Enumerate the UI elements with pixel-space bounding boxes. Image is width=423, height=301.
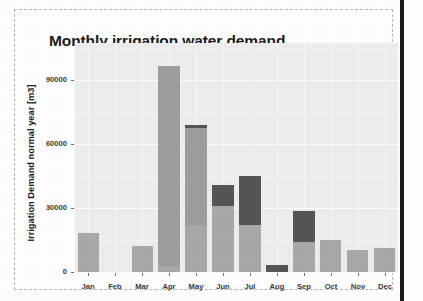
x-tick-label-oct: Oct <box>317 282 345 291</box>
gridline-y-30000 <box>75 208 398 209</box>
bar-segment <box>185 128 207 226</box>
bar-jun[interactable] <box>212 185 234 272</box>
gridline-x-nov <box>358 43 359 273</box>
bar-segment <box>293 211 315 243</box>
bar-segment <box>293 242 315 272</box>
bar-segment <box>239 225 261 272</box>
x-tick-mark-sep <box>304 273 305 276</box>
bar-dec[interactable] <box>374 248 396 272</box>
bar-apr[interactable] <box>158 66 180 272</box>
x-tick-mark-aug <box>277 273 278 276</box>
bar-segment <box>374 248 396 272</box>
x-tick-mark-oct <box>331 273 332 276</box>
gridline-y-0 <box>75 272 398 273</box>
x-tick-label-feb: Feb <box>101 282 129 291</box>
bar-sep[interactable] <box>293 211 315 272</box>
x-tick-label-jul: Jul <box>236 282 264 291</box>
bar-segment <box>212 185 234 206</box>
y-tick-mark-60000 <box>71 144 74 145</box>
y-tick-mark-0 <box>71 272 74 273</box>
bar-segment <box>132 246 154 273</box>
x-tick-mark-dec <box>385 273 386 276</box>
bar-jan[interactable] <box>78 233 100 272</box>
x-tick-mark-apr <box>169 273 170 276</box>
x-tick-label-jan: Jan <box>74 282 102 291</box>
gridline-y-90000 <box>75 80 398 81</box>
plot-area <box>75 43 398 273</box>
x-tick-label-jun: Jun <box>209 282 237 291</box>
bar-oct[interactable] <box>320 240 342 272</box>
x-tick-label-dec: Dec <box>371 282 399 291</box>
bar-segment <box>347 250 369 272</box>
gridline-y-minor-1 <box>75 48 398 49</box>
x-tick-mark-may <box>196 273 197 276</box>
y-tick-label-90000: 90000 <box>23 76 67 84</box>
x-tick-label-nov: Nov <box>344 282 372 291</box>
bar-may[interactable] <box>185 125 207 272</box>
y-tick-label-0: 0 <box>23 268 67 276</box>
gridline-y-60000 <box>75 144 398 145</box>
gridline-y-minor-3 <box>75 176 398 177</box>
gridline-x-oct <box>331 43 332 273</box>
x-tick-mark-jun <box>223 273 224 276</box>
bar-jul[interactable] <box>239 176 261 272</box>
x-tick-mark-feb <box>115 273 116 276</box>
page-margin-blank <box>404 0 423 301</box>
gridline-x-dec <box>385 43 386 273</box>
bar-aug[interactable] <box>266 265 288 272</box>
x-tick-mark-mar <box>142 273 143 276</box>
gridline-y-minor-4 <box>75 240 398 241</box>
gridline-x-aug <box>277 43 278 273</box>
x-tick-mark-jan <box>88 273 89 276</box>
bar-mar[interactable] <box>132 246 154 273</box>
bar-segment <box>158 266 180 272</box>
bar-segment <box>239 176 261 226</box>
bar-segment <box>158 66 180 265</box>
x-tick-mark-nov <box>358 273 359 276</box>
y-axis-title: Irrigation Demand normal year [m3] <box>24 62 38 264</box>
y-tick-label-30000: 30000 <box>23 204 67 212</box>
bar-segment <box>185 125 207 128</box>
y-tick-mark-30000 <box>71 208 74 209</box>
gridline-y-minor-2 <box>75 112 398 113</box>
x-tick-label-sep: Sep <box>290 282 318 291</box>
bar-segment <box>212 206 234 272</box>
y-tick-label-60000: 60000 <box>23 140 67 148</box>
gridline-x-mar <box>142 43 143 273</box>
x-tick-label-aug: Aug <box>263 282 291 291</box>
bar-nov[interactable] <box>347 250 369 272</box>
x-tick-mark-jul <box>250 273 251 276</box>
bar-segment <box>185 225 207 272</box>
x-tick-label-apr: Apr <box>155 282 183 291</box>
bar-segment <box>78 233 100 272</box>
bar-segment <box>266 265 288 272</box>
x-tick-label-may: May <box>182 282 210 291</box>
figure-panel: Monthly irrigation water demand Irrigati… <box>14 9 393 290</box>
gridline-x-feb <box>115 43 116 273</box>
x-tick-label-mar: Mar <box>128 282 156 291</box>
page-root: Monthly irrigation water demand Irrigati… <box>0 0 423 301</box>
y-tick-mark-90000 <box>71 80 74 81</box>
bar-segment <box>320 240 342 272</box>
